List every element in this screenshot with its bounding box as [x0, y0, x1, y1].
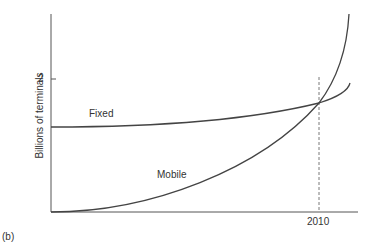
mobile-label: Mobile	[157, 169, 186, 180]
x-tick-label: 2010	[307, 216, 329, 227]
fixed-line	[51, 83, 350, 127]
panel-label: (b)	[2, 231, 14, 242]
chart-canvas	[0, 0, 370, 246]
fixed-label: Fixed	[89, 108, 113, 119]
y-tick-label: 2	[38, 73, 44, 84]
